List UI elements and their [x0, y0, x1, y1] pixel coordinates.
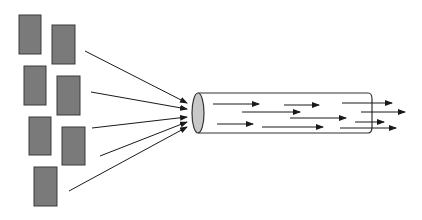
converging-arrow: [92, 117, 187, 128]
source-block: [24, 66, 46, 105]
source-blocks: [19, 15, 85, 206]
converging-arrow: [69, 127, 187, 191]
flow-arrows: [213, 103, 405, 128]
converging-arrow: [91, 92, 187, 109]
source-block: [34, 167, 57, 206]
source-block: [19, 15, 41, 54]
convergence-diagram: [0, 0, 422, 220]
converging-arrows: [69, 51, 187, 191]
source-block: [29, 117, 51, 155]
source-block: [62, 127, 85, 165]
source-block: [52, 25, 75, 64]
converging-arrow: [85, 51, 187, 103]
source-block: [57, 76, 80, 115]
pipe-opening: [192, 93, 204, 133]
